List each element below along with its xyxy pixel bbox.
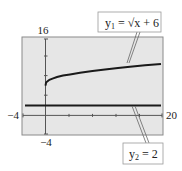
y2-callout-label: y2 = 2 (129, 147, 158, 162)
graph-window (22, 37, 163, 135)
ymin-label: −4 (40, 136, 52, 148)
xmin-label: −4 (7, 109, 19, 121)
ymax-label: 16 (38, 24, 50, 36)
xmax-label: 20 (166, 109, 178, 121)
graph-figure: 16 −4 −4 20 y1 = √x + 6 y2 = 2 (0, 0, 182, 171)
